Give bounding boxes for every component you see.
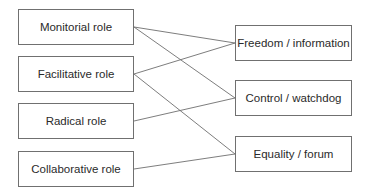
edge-monitorial-control [134, 27, 235, 98]
node-control-watchdog: Control / watchdog [235, 80, 352, 116]
node-label: Facilitative role [38, 68, 115, 80]
node-collaborative-role: Collaborative role [18, 151, 134, 187]
node-label: Monitorial role [40, 21, 112, 33]
edge-radical-control [134, 98, 235, 121]
edge-facilitative-equality [134, 74, 235, 154]
node-label: Radical role [46, 115, 107, 127]
edge-collaborative-equality [134, 154, 235, 169]
node-monitorial-role: Monitorial role [18, 9, 134, 45]
node-label: Freedom / information [237, 37, 350, 49]
node-freedom-information: Freedom / information [235, 25, 352, 61]
node-label: Equality / forum [254, 148, 334, 160]
node-facilitative-role: Facilitative role [18, 56, 134, 92]
node-label: Control / watchdog [246, 92, 342, 104]
node-equality-forum: Equality / forum [235, 136, 352, 172]
edge-facilitative-freedom [134, 43, 235, 74]
node-radical-role: Radical role [18, 103, 134, 139]
node-label: Collaborative role [31, 163, 121, 175]
edge-monitorial-freedom [134, 27, 235, 43]
